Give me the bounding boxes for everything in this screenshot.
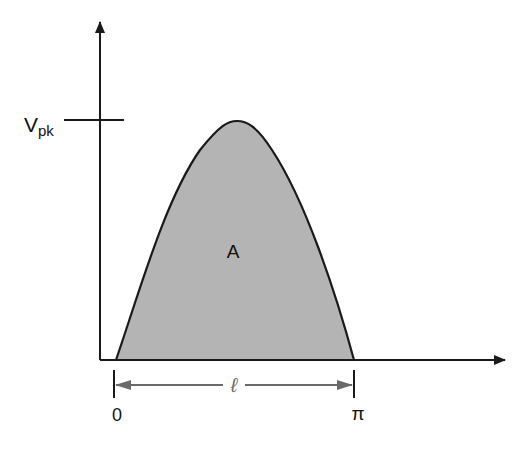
area-label: A	[227, 241, 240, 262]
vpk-label-sub: pk	[38, 122, 54, 139]
diagram-canvas: Vpk A ℓ 0 π	[0, 0, 531, 449]
start-label: 0	[112, 405, 122, 425]
vpk-label: Vpk	[24, 113, 54, 139]
end-label: π	[351, 403, 364, 424]
vpk-label-main: V	[24, 113, 38, 136]
length-label: ℓ	[230, 374, 239, 396]
